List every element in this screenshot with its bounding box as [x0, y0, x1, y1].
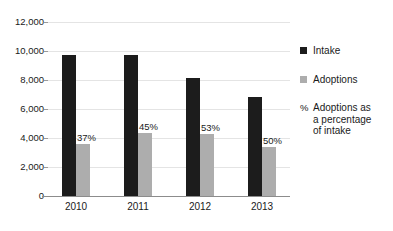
x-axis: 2010 2011 2012 2013 — [48, 200, 290, 216]
legend-note-line-1: Adoptions as — [313, 102, 371, 114]
y-tick-label: 6,000 — [0, 104, 44, 114]
x-tick-label-2013: 2013 — [240, 200, 284, 213]
bar-group: 50% — [248, 22, 277, 196]
bar-intake[interactable] — [124, 55, 138, 196]
legend-item-intake[interactable]: Intake — [300, 45, 390, 57]
chart-legend: Intake Adoptions % Adoptions as a percen… — [300, 45, 390, 154]
bar-group: 37% — [62, 22, 91, 196]
y-tick-label: 0 — [0, 191, 44, 201]
percent-sign-icon: % — [300, 102, 307, 113]
x-tick-label-2011: 2011 — [116, 200, 160, 213]
legend-swatch-gray-square-icon — [300, 76, 307, 83]
y-tick-label: 4,000 — [0, 133, 44, 143]
pct-annotation: 37% — [76, 132, 111, 143]
bar-group: 53% — [186, 22, 215, 196]
x-tick-label-2012: 2012 — [178, 200, 222, 213]
legend-item-percentage-note: % Adoptions as a percentage of intake — [300, 102, 390, 137]
y-tick-label: 2,000 — [0, 162, 44, 172]
bar-intake[interactable] — [248, 97, 262, 196]
plot-area: 37% 45% 53% 50% — [48, 22, 290, 196]
bar-adoptions[interactable] — [76, 144, 90, 196]
legend-note-line-3: of intake — [313, 125, 371, 137]
y-axis: 12,000 10,000 8,000 6,000 4,000 2,000 0 — [0, 22, 44, 196]
x-axis-line — [42, 196, 290, 197]
y-tick-label: 12,000 — [0, 17, 44, 27]
legend-label-percentage-note: Adoptions as a percentage of intake — [313, 102, 371, 137]
y-tick-label: 8,000 — [0, 75, 44, 85]
pct-annotation: 53% — [200, 122, 235, 133]
bar-intake[interactable] — [62, 55, 76, 196]
pct-annotation: 50% — [262, 135, 297, 146]
legend-note-line-2: a percentage — [313, 114, 371, 126]
legend-label-intake: Intake — [313, 45, 340, 57]
bar-chart-figure: 12,000 10,000 8,000 6,000 4,000 2,000 0 … — [0, 0, 393, 231]
bar-intake[interactable] — [186, 78, 200, 196]
pct-annotation: 45% — [138, 121, 173, 132]
legend-label-adoptions: Adoptions — [313, 74, 357, 86]
legend-swatch-black-square-icon — [300, 47, 307, 54]
legend-item-adoptions[interactable]: Adoptions — [300, 74, 390, 86]
y-tick-label: 10,000 — [0, 46, 44, 56]
bar-adoptions[interactable] — [138, 133, 152, 196]
x-tick-label-2010: 2010 — [54, 200, 98, 213]
bar-adoptions[interactable] — [200, 134, 214, 196]
bar-group: 45% — [124, 22, 153, 196]
bar-adoptions[interactable] — [262, 147, 276, 196]
